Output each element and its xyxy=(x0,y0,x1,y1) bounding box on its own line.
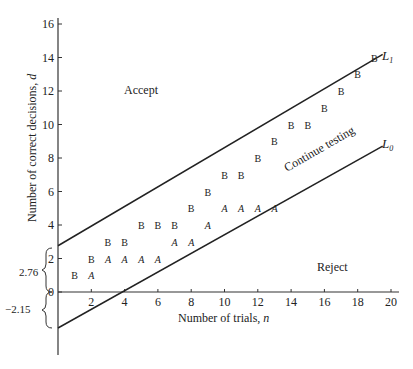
point-a: A xyxy=(121,254,129,265)
intercept-lower-label: −2.15 xyxy=(5,303,31,315)
point-b: B xyxy=(288,120,295,131)
point-a: A xyxy=(237,203,245,214)
point-b: B xyxy=(121,237,128,248)
x-axis-label: Number of trials, n xyxy=(178,311,269,325)
point-a: A xyxy=(254,203,262,214)
x-tick-label: 18 xyxy=(352,295,364,309)
point-a: A xyxy=(137,254,145,265)
point-a: A xyxy=(87,270,95,281)
x-tick-label: 20 xyxy=(385,295,397,309)
axes: 24681012141618200246810121416 xyxy=(42,17,399,355)
accept-region-label: Accept xyxy=(124,83,159,97)
x-tick-label: 16 xyxy=(318,295,330,309)
point-b: B xyxy=(188,203,195,214)
y-tick-label: 16 xyxy=(42,17,54,31)
x-tick-label: 8 xyxy=(188,295,194,309)
intercept-upper-label: 2.76 xyxy=(19,266,39,278)
point-b: B xyxy=(221,170,228,181)
x-tick-label: 4 xyxy=(122,295,128,309)
point-b: B xyxy=(354,69,361,80)
annotations: Accept Reject Continue testing L1 L0 Num… xyxy=(5,48,393,328)
point-b: B xyxy=(238,170,245,181)
y-tick-label: 10 xyxy=(42,118,54,132)
point-a: A xyxy=(170,237,178,248)
point-b: B xyxy=(171,220,178,231)
x-tick-label: 12 xyxy=(252,295,264,309)
boundary-lines xyxy=(58,54,383,328)
point-b: B xyxy=(155,220,162,231)
point-b: B xyxy=(205,187,212,198)
point-b: B xyxy=(271,136,278,147)
x-tick-label: 14 xyxy=(285,295,297,309)
point-a: A xyxy=(104,254,112,265)
sequential-test-chart: 24681012141618200246810121416 AAAAAAAAAA… xyxy=(0,0,413,369)
point-b: B xyxy=(321,103,328,114)
point-a: A xyxy=(154,254,162,265)
y-tick-label: 14 xyxy=(42,51,54,65)
data-points: AAAAAAAAAAAABBBBBBBBBBBBBBBBBBB xyxy=(71,53,378,282)
point-b: B xyxy=(254,153,261,164)
line-l1-label: L1 xyxy=(381,48,393,65)
point-b: B xyxy=(88,254,95,265)
point-b: B xyxy=(71,270,78,281)
y-tick-label: 6 xyxy=(48,185,54,199)
line-l1 xyxy=(58,54,383,245)
x-tick-label: 10 xyxy=(219,295,231,309)
point-a: A xyxy=(204,220,212,231)
point-a: A xyxy=(187,237,195,248)
y-tick-label: 2 xyxy=(48,252,54,266)
point-b: B xyxy=(338,86,345,97)
point-b: B xyxy=(105,237,112,248)
point-a: A xyxy=(220,203,228,214)
y-tick-label: 8 xyxy=(48,151,54,165)
point-a: A xyxy=(270,203,278,214)
x-tick-label: 2 xyxy=(88,295,94,309)
line-l0-label: L0 xyxy=(381,136,393,153)
reject-region-label: Reject xyxy=(317,260,348,274)
point-b: B xyxy=(138,220,145,231)
x-tick-label: 6 xyxy=(155,295,161,309)
y-axis-label: Number of correct decisions, d xyxy=(25,73,39,222)
point-b: B xyxy=(371,53,378,64)
point-b: B xyxy=(304,120,311,131)
y-tick-label: 12 xyxy=(42,84,54,98)
y-tick-label: 4 xyxy=(48,218,54,232)
